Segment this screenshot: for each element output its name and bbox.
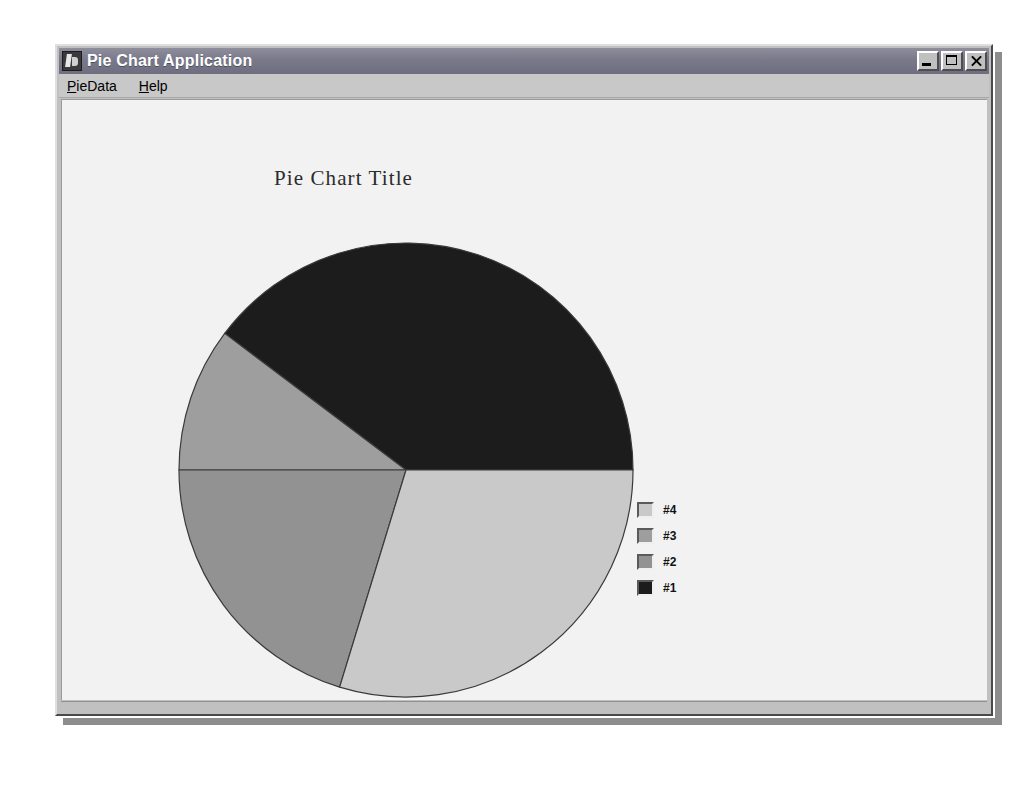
legend-item[interactable]: #2 xyxy=(637,553,676,570)
page-root: Pie Chart Application PieData Help xyxy=(0,0,1034,796)
menu-item-help[interactable]: Help xyxy=(137,76,178,96)
pie-slice-group xyxy=(179,243,633,697)
menu-bar: PieData Help xyxy=(59,74,989,98)
close-button[interactable] xyxy=(965,51,987,71)
menu-help-mnemonic: H xyxy=(139,78,149,94)
legend-item[interactable]: #3 xyxy=(637,527,676,544)
chart-title: Pie Chart Title xyxy=(274,166,413,191)
window-title: Pie Chart Application xyxy=(87,52,917,70)
maximize-icon xyxy=(946,55,957,65)
menu-piedata-mnemonic: P xyxy=(67,78,76,94)
menu-help-rest: elp xyxy=(149,78,168,94)
maximize-button[interactable] xyxy=(941,51,963,71)
title-bar[interactable]: Pie Chart Application xyxy=(59,48,989,74)
legend-item[interactable]: #1 xyxy=(637,579,676,596)
pie-chart xyxy=(176,240,636,700)
chart-legend: #4 #3 #2 #1 xyxy=(637,501,676,596)
window-controls xyxy=(917,51,987,71)
legend-swatch-3 xyxy=(637,528,654,544)
legend-label-3: #3 xyxy=(663,529,676,543)
application-window: Pie Chart Application PieData Help xyxy=(55,44,993,716)
legend-item[interactable]: #4 xyxy=(637,501,676,518)
legend-label-2: #2 xyxy=(663,555,676,569)
application-icon xyxy=(62,51,82,71)
menu-item-piedata[interactable]: PieData xyxy=(65,76,127,96)
window-drop-shadow-bottom xyxy=(63,718,1001,725)
legend-label-1: #1 xyxy=(663,581,676,595)
window-drop-shadow-right xyxy=(995,52,1002,725)
legend-label-4: #4 xyxy=(663,503,676,517)
window-bottom-strip xyxy=(61,701,987,712)
minimize-icon xyxy=(922,63,931,66)
legend-swatch-1 xyxy=(637,580,654,596)
legend-swatch-2 xyxy=(637,554,654,570)
minimize-button[interactable] xyxy=(917,51,939,71)
menu-piedata-rest: ieData xyxy=(76,78,116,94)
legend-swatch-4 xyxy=(637,502,654,518)
chart-canvas: Pie Chart Title #4 #3 #2 xyxy=(61,99,987,700)
pie-chart-svg xyxy=(176,240,636,700)
